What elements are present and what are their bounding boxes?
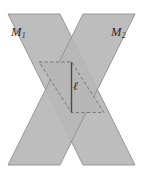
geometry-figure: M1 M2 ℓ	[0, 0, 143, 175]
plane-m2-label-base: M	[111, 25, 121, 39]
plane-m1-label-base: M	[11, 25, 21, 39]
plane-m1-label: M1	[11, 26, 26, 39]
plane-m1-label-subscript: 1	[22, 31, 26, 40]
line-ell-label: ℓ	[73, 80, 78, 92]
plane-m2-label-subscript: 2	[122, 31, 126, 40]
plane-m2-label: M2	[111, 26, 126, 39]
